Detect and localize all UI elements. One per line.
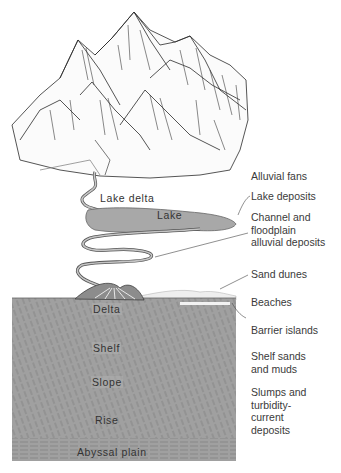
label-channel-floodplain: Channel and floodplain alluvial deposits [251,211,325,249]
label-lake: Lake [157,209,182,221]
label-delta: Delta [92,303,122,315]
label-slumps-turbidity: Slumps and turbidity- current deposits [251,386,306,436]
label-beaches: Beaches [251,296,292,309]
sedimentary-environments-diagram: Lake delta Lake Delta Shelf Slope Rise A… [0,0,341,473]
label-lake-deposits: Lake deposits [251,190,316,203]
barrier-island [180,302,230,305]
label-slope: Slope [91,376,123,388]
label-sand-dunes: Sand dunes [251,268,307,281]
label-shelf: Shelf [92,342,121,354]
label-alluvial-fans: Alluvial fans [251,170,307,183]
mountains [12,12,248,178]
label-rise: Rise [95,414,118,426]
label-lake-delta: Lake delta [100,192,154,204]
label-shelf-sands: Shelf sands and muds [251,350,306,375]
label-abyssal-plain: Abyssal plain [77,446,147,458]
label-barrier-islands: Barrier islands [251,324,318,337]
